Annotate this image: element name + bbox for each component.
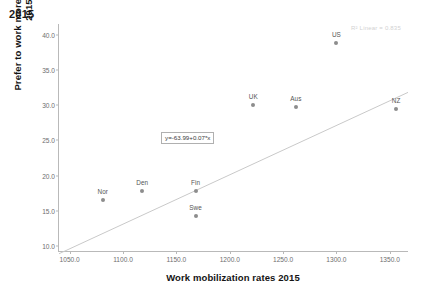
data-point[interactable] bbox=[394, 107, 398, 111]
y-tick-mark bbox=[56, 105, 59, 106]
x-tick-label: 1350.0 bbox=[380, 256, 400, 263]
y-tick-mark bbox=[56, 175, 59, 176]
y-tick-label: 40.0 bbox=[42, 31, 55, 38]
data-point-label: UK bbox=[249, 93, 258, 100]
y-tick-label: 25.0 bbox=[42, 137, 55, 144]
x-tick-label: 1300.0 bbox=[326, 256, 346, 263]
data-point[interactable] bbox=[294, 105, 298, 109]
x-tick-label: 1100.0 bbox=[113, 256, 133, 263]
y-tick-label: 10.0 bbox=[42, 243, 55, 250]
data-point-label: Aus bbox=[290, 95, 301, 102]
data-point-label: Nor bbox=[97, 188, 108, 195]
scatter-chart: 2015 Prefer to work more and earn more 2… bbox=[0, 0, 421, 298]
x-tick-mark bbox=[336, 251, 337, 254]
data-point-label: NZ bbox=[392, 97, 401, 104]
data-point[interactable] bbox=[251, 103, 255, 107]
equation-callout: y=-63.99+0.07*x bbox=[161, 132, 214, 144]
x-tick-label: 1250.0 bbox=[273, 256, 293, 263]
regression-line bbox=[59, 24, 408, 251]
x-tick-label: 1200.0 bbox=[220, 256, 240, 263]
data-point-label: US bbox=[332, 31, 341, 38]
x-axis-title: Work mobilization rates 2015 bbox=[58, 272, 408, 283]
x-tick-mark bbox=[123, 251, 124, 254]
y-tick-mark bbox=[56, 34, 59, 35]
data-point-label: Den bbox=[136, 179, 148, 186]
x-tick-mark bbox=[70, 251, 71, 254]
y-tick-mark bbox=[56, 211, 59, 212]
data-point[interactable] bbox=[334, 41, 338, 45]
y-tick-label: 20.0 bbox=[42, 172, 55, 179]
plot-area: 10.015.020.025.030.035.040.0 1050.01100.… bbox=[58, 24, 408, 252]
y-tick-mark bbox=[56, 246, 59, 247]
x-tick-mark bbox=[230, 251, 231, 254]
x-tick-mark bbox=[390, 251, 391, 254]
data-point[interactable] bbox=[194, 189, 198, 193]
x-tick-label: 1050.0 bbox=[60, 256, 80, 263]
data-point[interactable] bbox=[194, 214, 198, 218]
y-tick-label: 35.0 bbox=[42, 66, 55, 73]
y-tick-label: 30.0 bbox=[42, 102, 55, 109]
r-squared-annotation: R² Linear = 0.835 bbox=[351, 25, 401, 31]
x-tick-label: 1150.0 bbox=[167, 256, 187, 263]
y-axis-title-wrapper: Prefer to work more and earn more 2015 bbox=[14, 40, 28, 240]
y-tick-mark bbox=[56, 69, 59, 70]
data-point[interactable] bbox=[140, 189, 144, 193]
x-tick-mark bbox=[176, 251, 177, 254]
y-tick-mark bbox=[56, 140, 59, 141]
x-tick-mark bbox=[283, 251, 284, 254]
y-axis-title: Prefer to work more and earn more 2015 bbox=[12, 0, 34, 100]
data-point[interactable] bbox=[101, 198, 105, 202]
data-point-label: Fin bbox=[191, 179, 200, 186]
y-tick-label: 15.0 bbox=[42, 208, 55, 215]
data-point-label: Swe bbox=[189, 204, 202, 211]
